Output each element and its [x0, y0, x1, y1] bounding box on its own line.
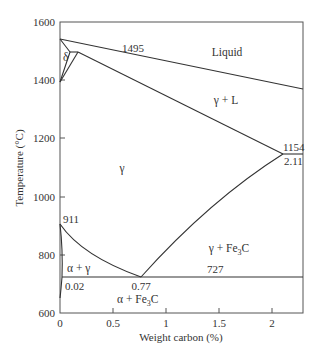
x-tick-2: 2: [269, 317, 275, 329]
phase-lines: [60, 39, 303, 298]
x-axis-label: Weight carbon (%): [139, 331, 223, 344]
plot-frame: [60, 22, 303, 313]
x-tick-1.5: 1.5: [212, 317, 226, 329]
region-alpha-fe3c: α + Fe3C: [117, 293, 159, 308]
y-tick-1000: 1000: [33, 191, 56, 203]
region-delta: δ: [63, 51, 68, 63]
annotation-1154: 1154: [283, 141, 305, 153]
y-tick-1200: 1200: [33, 132, 56, 144]
annotation-0.02: 0.02: [65, 280, 84, 292]
y-tick-800: 800: [39, 249, 56, 261]
y-tick-1600: 1600: [33, 16, 56, 28]
annotation-727: 727: [207, 263, 224, 275]
annotation-0.77: 0.77: [131, 280, 151, 292]
region-gamma-fe3c: γ + Fe3C: [208, 242, 250, 257]
y-tick-1400: 1400: [33, 74, 56, 86]
y-axis-label: Temperature (°C): [13, 129, 26, 207]
y-tick-600: 600: [39, 307, 56, 319]
x-tick-0: 0: [57, 317, 63, 329]
annotations: 1495 1154 2.11 911 727 0.77 0.02: [63, 42, 305, 292]
annotation-1495: 1495: [122, 42, 145, 54]
phase-diagram: 1600 1400 1200 1000 800 600 Temperature …: [0, 0, 322, 360]
region-gamma: γ: [118, 162, 124, 175]
y-axis: 1600 1400 1200 1000 800 600 Temperature …: [13, 16, 65, 319]
region-alpha-gamma: α + γ: [67, 262, 90, 275]
x-tick-0.5: 0.5: [106, 317, 120, 329]
region-gamma-liquid: γ + L: [213, 94, 238, 107]
region-liquid: Liquid: [212, 46, 243, 59]
annotation-2.11: 2.11: [284, 155, 303, 167]
x-tick-1: 1: [163, 317, 169, 329]
annotation-911: 911: [63, 213, 79, 225]
